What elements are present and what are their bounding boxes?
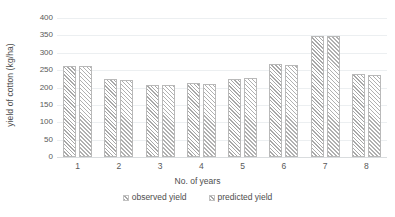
bar-observed-3[interactable]: [146, 85, 159, 157]
bar-group: [98, 18, 139, 157]
x-axis-tick-labels: 12345678: [57, 160, 387, 174]
x-axis-tick-label: 5: [222, 160, 263, 174]
y-axis-title-text: yield of cotton (kg/ha): [5, 43, 15, 127]
bar-predicted-4[interactable]: [203, 84, 216, 157]
legend-entry-observed[interactable]: observed yield: [123, 193, 187, 202]
bar-predicted-1[interactable]: [79, 66, 92, 157]
y-axis-tick-label: 300: [27, 49, 53, 57]
bar-observed-6[interactable]: [269, 64, 282, 157]
bar-group: [346, 18, 387, 157]
y-axis-tick-label: 50: [27, 136, 53, 144]
bar-group: [57, 18, 98, 157]
bar-observed-2[interactable]: [104, 79, 117, 157]
gridline: [57, 157, 387, 158]
legend-swatch-icon: [209, 195, 215, 201]
bar-observed-4[interactable]: [187, 83, 200, 157]
bar-group: [181, 18, 222, 157]
legend-entry-predicted[interactable]: predicted yield: [209, 193, 273, 202]
bar-predicted-7[interactable]: [327, 36, 340, 157]
x-axis-tick-label: 6: [263, 160, 304, 174]
bar-observed-8[interactable]: [352, 74, 365, 157]
bar-predicted-5[interactable]: [244, 78, 257, 157]
bar-predicted-2[interactable]: [120, 80, 133, 157]
x-axis-tick-label: 1: [57, 160, 98, 174]
chart-legend: observed yieldpredicted yield: [0, 193, 395, 202]
bar-group: [305, 18, 346, 157]
y-axis-tick-label: 400: [27, 14, 53, 22]
bar-observed-1[interactable]: [63, 66, 76, 157]
bar-observed-5[interactable]: [228, 79, 241, 157]
x-axis-tick-label: 3: [140, 160, 181, 174]
legend-swatch-icon: [123, 195, 129, 201]
x-axis-tick-label: 8: [346, 160, 387, 174]
plot-area: [57, 18, 387, 157]
x-axis-title-text: No. of years: [175, 176, 221, 186]
y-axis-title: yield of cotton (kg/ha): [2, 0, 18, 170]
bar-group: [140, 18, 181, 157]
legend-label: observed yield: [132, 193, 187, 202]
y-axis-tick-label: 200: [27, 84, 53, 92]
y-axis-tick-label: 100: [27, 118, 53, 126]
x-axis-tick-label: 7: [305, 160, 346, 174]
legend-label: predicted yield: [218, 193, 273, 202]
x-axis-tick-label: 4: [181, 160, 222, 174]
bar-group: [263, 18, 304, 157]
bar-group: [222, 18, 263, 157]
y-axis-tick-label: 250: [27, 66, 53, 74]
bar-predicted-3[interactable]: [162, 85, 175, 157]
bar-predicted-6[interactable]: [285, 65, 298, 157]
x-axis-title: No. of years: [0, 176, 395, 186]
bar-groups: [57, 18, 387, 157]
x-axis-tick-label: 2: [98, 160, 139, 174]
y-axis-tick-label: 0: [27, 153, 53, 161]
y-axis-tick-label: 150: [27, 101, 53, 109]
bar-observed-7[interactable]: [311, 36, 324, 157]
bar-predicted-8[interactable]: [368, 75, 381, 157]
bar-chart: yield of cotton (kg/ha) 0501001502002503…: [0, 0, 395, 217]
y-axis-tick-label: 350: [27, 31, 53, 39]
